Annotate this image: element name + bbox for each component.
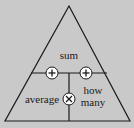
plus-icon-right (80, 67, 92, 79)
plus-icon-left (46, 67, 58, 79)
formula-triangle: sum average how many (0, 0, 134, 128)
times-icon (63, 93, 75, 105)
label-sum: sum (60, 49, 79, 61)
label-average: average (25, 93, 59, 105)
label-how: how (84, 84, 103, 96)
label-many: many (81, 96, 106, 108)
